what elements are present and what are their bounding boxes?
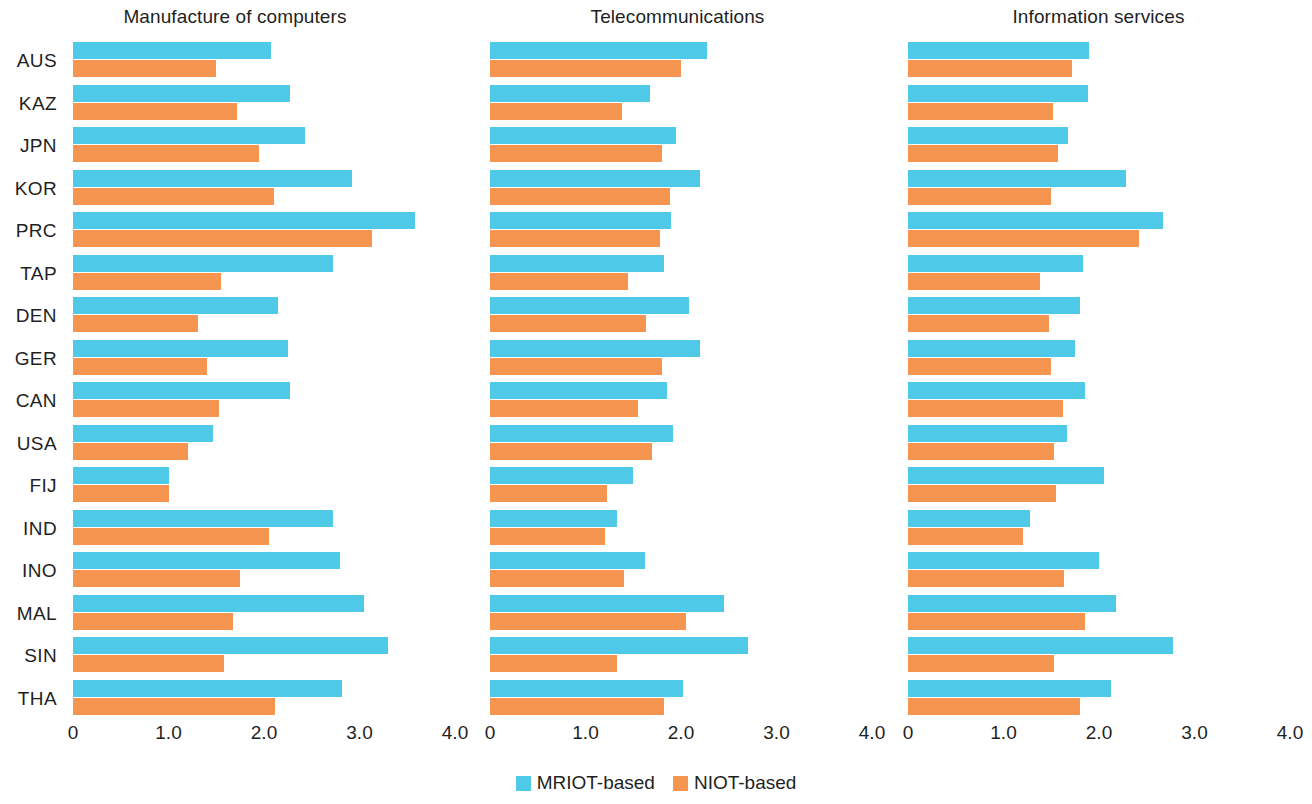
bar-tha-niot <box>490 698 664 715</box>
bar-mal-niot <box>73 613 233 630</box>
x-tick-label: 3.0 <box>346 722 372 744</box>
bar-jpn-mriot <box>490 127 676 144</box>
x-tick-label: 3.0 <box>1181 722 1207 744</box>
bar-prc-niot <box>908 230 1139 247</box>
x-tick-label: 4.0 <box>1277 722 1303 744</box>
x-tick-label: 1.0 <box>155 722 181 744</box>
bar-row <box>73 253 455 296</box>
bar-row <box>908 295 1290 338</box>
bar-row <box>490 168 872 211</box>
bar-ind-niot <box>73 528 269 545</box>
bar-prc-niot <box>73 230 372 247</box>
bar-ino-mriot <box>73 552 340 569</box>
x-tick-label: 2.0 <box>668 722 694 744</box>
bar-tha-mriot <box>908 680 1111 697</box>
bar-kor-mriot <box>490 170 700 187</box>
bar-row <box>908 593 1290 636</box>
bar-kor-mriot <box>908 170 1126 187</box>
panel-title-information-services: Information services <box>885 0 1312 40</box>
bar-row <box>73 635 455 678</box>
bar-jpn-niot <box>490 145 662 162</box>
bar-row <box>73 380 455 423</box>
bar-ind-mriot <box>490 510 617 527</box>
bar-prc-niot <box>490 230 660 247</box>
bar-rows <box>73 40 455 720</box>
grouped-bar-chart: Manufacture of computers Telecommunicati… <box>0 0 1312 804</box>
bar-rows <box>490 40 872 720</box>
bar-usa-niot <box>490 443 652 460</box>
bar-sin-mriot <box>73 637 388 654</box>
bar-can-mriot <box>908 382 1085 399</box>
bar-row <box>908 338 1290 381</box>
bar-mal-mriot <box>73 595 364 612</box>
bar-ind-mriot <box>73 510 333 527</box>
bar-kaz-niot <box>73 103 237 120</box>
bar-mal-niot <box>908 613 1085 630</box>
bar-jpn-mriot <box>73 127 305 144</box>
bar-den-niot <box>908 315 1049 332</box>
x-tick-label: 2.0 <box>1086 722 1112 744</box>
bar-mal-mriot <box>490 595 724 612</box>
bar-row <box>490 423 872 466</box>
bar-tap-niot <box>490 273 628 290</box>
bar-usa-mriot <box>73 425 213 442</box>
bar-row <box>490 678 872 721</box>
bar-kor-mriot <box>73 170 352 187</box>
bar-row <box>490 508 872 551</box>
bar-tap-mriot <box>908 255 1083 272</box>
bar-row <box>908 635 1290 678</box>
bar-row <box>73 210 455 253</box>
bar-usa-niot <box>908 443 1054 460</box>
bar-row <box>73 678 455 721</box>
bar-sin-niot <box>73 655 224 672</box>
bar-aus-mriot <box>908 42 1089 59</box>
bar-kaz-mriot <box>908 85 1088 102</box>
panel-manufacture-of-computers <box>0 40 470 720</box>
bar-prc-mriot <box>908 212 1163 229</box>
bar-row <box>490 380 872 423</box>
bar-tap-mriot <box>73 255 333 272</box>
bar-tha-mriot <box>73 680 342 697</box>
bar-can-mriot <box>73 382 290 399</box>
bar-row <box>73 295 455 338</box>
bar-den-mriot <box>490 297 689 314</box>
x-tick-label: 1.0 <box>990 722 1016 744</box>
legend-label-niot: NIOT-based <box>694 772 796 794</box>
panel-title-telecommunications: Telecommunications <box>470 0 885 40</box>
bar-fij-niot <box>73 485 169 502</box>
bar-mal-mriot <box>908 595 1116 612</box>
bar-row <box>908 83 1290 126</box>
bar-row <box>73 593 455 636</box>
bar-kaz-niot <box>908 103 1053 120</box>
bar-den-niot <box>73 315 198 332</box>
bar-row <box>908 125 1290 168</box>
bar-rows <box>908 40 1290 720</box>
x-tick-label: 3.0 <box>763 722 789 744</box>
bar-tha-niot <box>73 698 275 715</box>
bar-ind-niot <box>908 528 1023 545</box>
bar-row <box>490 253 872 296</box>
bar-row <box>73 465 455 508</box>
bar-can-mriot <box>490 382 667 399</box>
bar-row <box>73 125 455 168</box>
bar-row <box>73 423 455 466</box>
x-tick-label: 2.0 <box>251 722 277 744</box>
bar-row <box>490 550 872 593</box>
bar-jpn-niot <box>908 145 1058 162</box>
bar-den-niot <box>490 315 646 332</box>
bar-ger-niot <box>490 358 662 375</box>
bar-row <box>908 550 1290 593</box>
panel-title-manufacture-of-computers: Manufacture of computers <box>0 0 470 40</box>
bar-ino-niot <box>908 570 1064 587</box>
bar-row <box>73 338 455 381</box>
bar-kaz-niot <box>490 103 622 120</box>
bar-row <box>908 380 1290 423</box>
bar-aus-niot <box>490 60 681 77</box>
bar-sin-niot <box>490 655 617 672</box>
bar-prc-mriot <box>490 212 671 229</box>
bar-row <box>73 550 455 593</box>
bar-row <box>490 40 872 83</box>
bar-usa-mriot <box>490 425 673 442</box>
bar-tha-niot <box>908 698 1080 715</box>
bar-tap-mriot <box>490 255 664 272</box>
